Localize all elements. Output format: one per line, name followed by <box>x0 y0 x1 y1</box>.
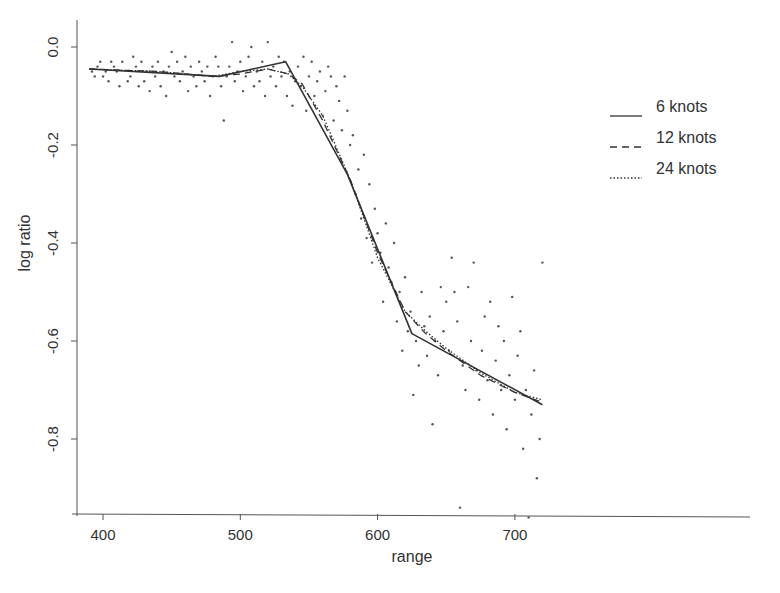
legend-label: 12 knots <box>656 129 716 146</box>
data-point <box>324 90 326 92</box>
data-point <box>365 237 367 239</box>
data-point <box>267 41 269 43</box>
line-12-knots <box>89 69 542 402</box>
chart: 0.0-0.2-0.4-0.6-0.8 400500600700 range l… <box>0 0 780 593</box>
data-point <box>234 80 236 82</box>
data-point <box>286 95 288 97</box>
data-point <box>173 75 175 77</box>
y-ticks: 0.0-0.2-0.4-0.6-0.8 <box>44 37 77 452</box>
data-point <box>423 325 425 327</box>
data-point <box>129 75 131 77</box>
data-point <box>332 119 334 121</box>
y-tick-label: -0.8 <box>44 426 61 452</box>
data-point <box>168 65 170 67</box>
data-point <box>401 350 403 352</box>
data-point <box>412 394 414 396</box>
data-point <box>360 217 362 219</box>
data-point <box>201 70 203 72</box>
data-point <box>536 477 538 479</box>
data-point <box>538 438 540 440</box>
data-point <box>508 374 510 376</box>
data-point <box>228 65 230 67</box>
data-point <box>137 85 139 87</box>
data-point <box>418 364 420 366</box>
data-point <box>275 85 277 87</box>
data-point <box>181 70 183 72</box>
data-point <box>363 154 365 156</box>
data-point <box>195 85 197 87</box>
data-point <box>420 291 422 293</box>
data-point <box>357 168 359 170</box>
data-point <box>113 65 115 67</box>
data-point <box>497 325 499 327</box>
y-axis-title: log ratio <box>16 214 33 271</box>
y-tick-label: -0.6 <box>44 328 61 354</box>
data-point <box>170 51 172 53</box>
data-point <box>470 340 472 342</box>
data-point <box>486 379 488 381</box>
data-point <box>426 355 428 357</box>
data-point <box>261 61 263 63</box>
data-point <box>272 65 274 67</box>
data-point <box>453 291 455 293</box>
data-point <box>398 291 400 293</box>
data-point <box>393 242 395 244</box>
data-point <box>107 80 109 82</box>
data-point <box>409 310 411 312</box>
data-point <box>445 301 447 303</box>
data-point <box>157 61 159 63</box>
y-tick-label: -0.2 <box>44 132 61 158</box>
data-point <box>214 56 216 58</box>
data-point <box>217 65 219 67</box>
data-point <box>176 61 178 63</box>
data-point <box>387 266 389 268</box>
data-point <box>431 423 433 425</box>
data-point <box>352 134 354 136</box>
data-point <box>404 276 406 278</box>
data-point <box>374 208 376 210</box>
data-point <box>305 110 307 112</box>
data-point <box>442 330 444 332</box>
data-point <box>327 65 329 67</box>
data-point <box>127 80 129 82</box>
data-point <box>514 399 516 401</box>
data-point <box>456 320 458 322</box>
data-point <box>91 70 93 72</box>
data-point <box>140 61 142 63</box>
data-point <box>135 65 137 67</box>
data-point <box>245 75 247 77</box>
data-point <box>459 506 461 508</box>
data-point <box>385 222 387 224</box>
data-point <box>187 90 189 92</box>
legend-label: 6 knots <box>656 98 708 115</box>
data-point <box>151 65 153 67</box>
data-point <box>143 80 145 82</box>
data-point <box>349 144 351 146</box>
data-point <box>148 90 150 92</box>
data-point <box>220 85 222 87</box>
data-point <box>253 85 255 87</box>
data-point <box>396 320 398 322</box>
data-point <box>478 399 480 401</box>
data-point <box>341 129 343 131</box>
data-point <box>184 56 186 58</box>
data-point <box>343 75 345 77</box>
line-24-knots <box>89 69 542 400</box>
data-point <box>464 389 466 391</box>
data-point <box>451 257 453 259</box>
data-point <box>462 364 464 366</box>
data-point <box>368 183 370 185</box>
data-point <box>159 85 161 87</box>
data-point <box>316 80 318 82</box>
data-point <box>500 389 502 391</box>
x-axis-title: range <box>392 548 433 565</box>
data-point <box>308 75 310 77</box>
data-point <box>297 65 299 67</box>
data-point <box>94 75 96 77</box>
data-point <box>376 232 378 234</box>
scatter-points <box>91 41 544 519</box>
data-point <box>154 75 156 77</box>
data-point <box>96 65 98 67</box>
data-point <box>264 95 266 97</box>
data-point <box>489 301 491 303</box>
